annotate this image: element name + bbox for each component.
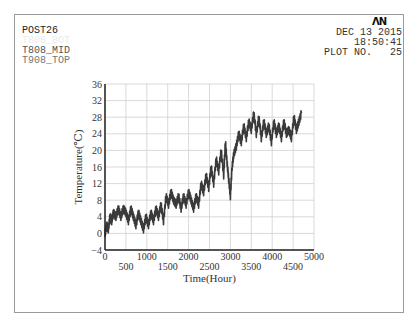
- temperature-chart: −404812162024283236050010001500200025003…: [0, 0, 418, 326]
- svg-text:0: 0: [103, 251, 108, 262]
- svg-text:3000: 3000: [220, 251, 240, 262]
- svg-text:0: 0: [97, 228, 102, 239]
- svg-text:3500: 3500: [241, 261, 261, 272]
- svg-text:4500: 4500: [283, 261, 303, 272]
- svg-text:16: 16: [92, 162, 102, 173]
- svg-text:1500: 1500: [158, 261, 178, 272]
- svg-text:36: 36: [92, 79, 102, 90]
- y-axis-label: Temperature(℃): [72, 129, 85, 204]
- svg-text:8: 8: [97, 195, 102, 206]
- svg-text:12: 12: [92, 178, 102, 189]
- svg-text:32: 32: [92, 95, 102, 106]
- svg-text:20: 20: [92, 145, 102, 156]
- svg-text:−4: −4: [91, 245, 102, 256]
- svg-text:5000: 5000: [304, 251, 324, 262]
- svg-text:4000: 4000: [262, 251, 282, 262]
- svg-text:28: 28: [92, 112, 102, 123]
- svg-text:2500: 2500: [200, 261, 220, 272]
- svg-text:2000: 2000: [179, 251, 199, 262]
- x-axis-label: Time(Hour): [183, 272, 236, 285]
- svg-text:24: 24: [92, 128, 102, 139]
- svg-text:4: 4: [97, 211, 102, 222]
- svg-text:500: 500: [118, 261, 133, 272]
- svg-text:1000: 1000: [137, 251, 157, 262]
